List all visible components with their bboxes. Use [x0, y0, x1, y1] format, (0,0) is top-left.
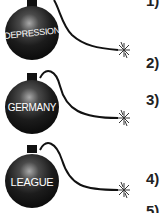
spark-icon	[118, 182, 130, 198]
bomb-label-germany: GERMANY	[4, 102, 60, 113]
fuse-1	[54, 0, 118, 50]
item-number-5: 5)	[146, 203, 159, 213]
bomb-label-league: LEAGUE	[4, 176, 60, 188]
item-number-4: 4)	[146, 171, 159, 186]
item-number-3: 3)	[146, 92, 159, 107]
spark-icon	[118, 42, 130, 58]
item-number-1: 1)	[146, 0, 159, 8]
bomb-worksheet: DEPRESSION GERMANY LEAGUE 1) 2) 3) 4) 5)	[0, 0, 166, 213]
spark-icon	[118, 110, 130, 126]
item-number-2: 2)	[146, 55, 159, 70]
